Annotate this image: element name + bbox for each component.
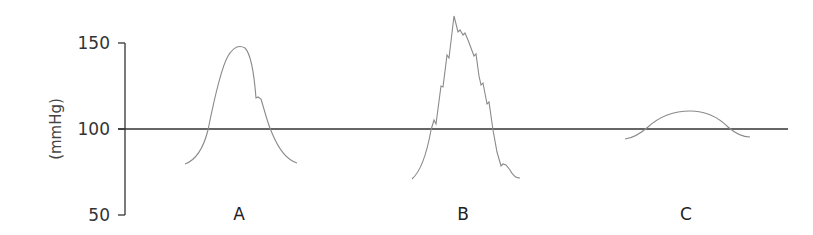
waveform-label-b: B xyxy=(457,204,469,224)
waveform-label-a: A xyxy=(233,204,245,224)
y-axis: 150 100 50 (mmHg) xyxy=(47,33,125,225)
tick-label-150: 150 xyxy=(78,33,110,53)
pressure-waveform-chart: 150 100 50 (mmHg) A B C xyxy=(0,0,813,235)
tick-label-50: 50 xyxy=(88,205,110,225)
y-axis-title: (mmHg) xyxy=(47,98,65,160)
tick-label-100: 100 xyxy=(78,119,110,139)
waveform-label-c: C xyxy=(680,204,692,224)
waveform-b xyxy=(412,16,520,179)
waveform-c xyxy=(625,111,750,139)
waveform-a xyxy=(185,47,297,164)
